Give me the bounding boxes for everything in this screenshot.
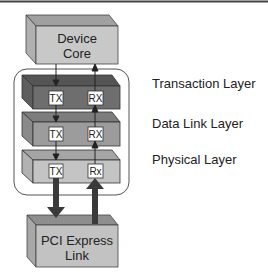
device-core-label-line1: Device — [57, 31, 97, 46]
pcie-layer-diagram: Device Core TX RX TX RX TX Rx — [0, 0, 268, 277]
rx-label: RX — [89, 93, 103, 104]
rx-label: Rx — [89, 166, 101, 177]
tx-label: TX — [50, 93, 63, 104]
arrow-up-icon — [92, 64, 98, 71]
pci-link-label-line2: Link — [65, 248, 89, 263]
data-link-layer-block: TX RX — [22, 112, 120, 146]
physical-layer-label: Physical Layer — [152, 152, 237, 167]
pci-express-link-box: PCI Express Link — [27, 215, 118, 267]
thick-tx-arrow — [47, 178, 65, 218]
physical-layer-block: TX Rx — [22, 150, 120, 183]
device-core-label-line2: Core — [63, 46, 91, 61]
tx-label: TX — [50, 166, 63, 177]
transaction-layer-label: Transaction Layer — [152, 76, 256, 91]
data-link-layer-label: Data Link Layer — [152, 116, 243, 131]
device-core-box: Device Core — [26, 15, 118, 64]
rx-label: RX — [89, 129, 103, 140]
transaction-layer-block: TX RX — [22, 75, 120, 109]
pci-link-label-line1: PCI Express — [41, 233, 114, 248]
tx-label: TX — [50, 129, 63, 140]
